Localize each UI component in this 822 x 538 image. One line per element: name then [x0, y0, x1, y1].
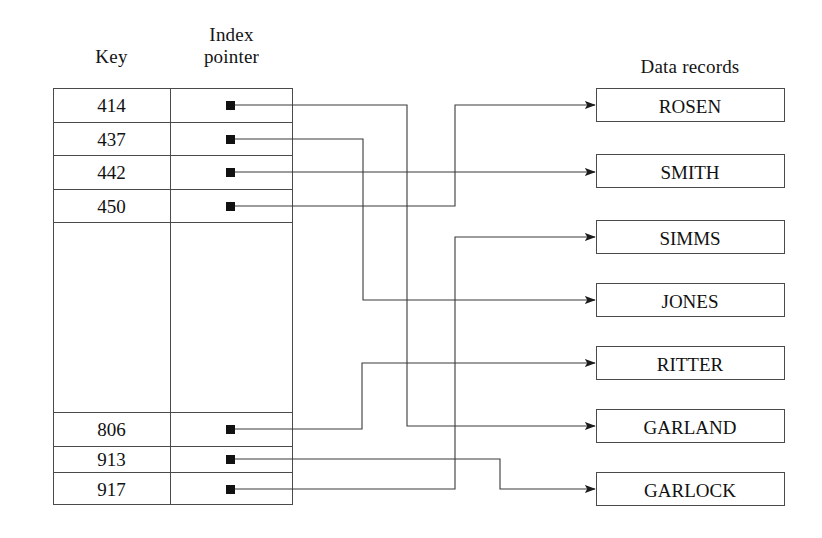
key-cell-414: 414: [53, 96, 170, 115]
index-pointer-squares: [226, 101, 235, 494]
record-label-garlock: GARLOCK: [596, 481, 784, 500]
pointer-square-450: [226, 202, 235, 211]
link-913-to-garlock: [232, 459, 595, 489]
key-cell-913: 913: [53, 450, 170, 469]
record-label-jones: JONES: [596, 292, 784, 311]
key-cell-806: 806: [53, 420, 170, 439]
key-cell-437: 437: [53, 130, 170, 149]
record-label-garland: GARLAND: [596, 418, 784, 437]
link-806-to-ritter: [232, 363, 595, 429]
index-table-frame: [54, 89, 293, 505]
link-414-to-garland: [232, 105, 595, 426]
index-file-diagram: Key Index pointer Data records: [0, 0, 822, 538]
record-label-rosen: ROSEN: [596, 97, 784, 116]
pointer-square-442: [226, 168, 235, 177]
key-cell-917: 917: [53, 480, 170, 499]
record-label-smith: SMITH: [596, 163, 784, 182]
key-cell-450: 450: [53, 197, 170, 216]
pointer-square-437: [226, 135, 235, 144]
key-cell-442: 442: [53, 163, 170, 182]
pointer-square-414: [226, 101, 235, 110]
record-label-ritter: RITTER: [596, 355, 784, 374]
record-label-simms: SIMMS: [596, 229, 784, 248]
pointer-square-806: [226, 425, 235, 434]
pointer-square-913: [226, 455, 235, 464]
link-437-to-jones: [232, 139, 595, 300]
pointer-square-917: [226, 485, 235, 494]
